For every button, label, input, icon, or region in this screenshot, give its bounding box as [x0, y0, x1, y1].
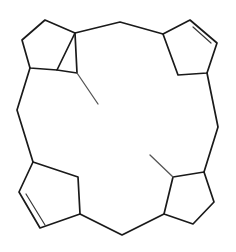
structure-svg [0, 0, 236, 252]
chemical-structure-diagram [0, 0, 236, 252]
diagram-background [0, 0, 236, 252]
